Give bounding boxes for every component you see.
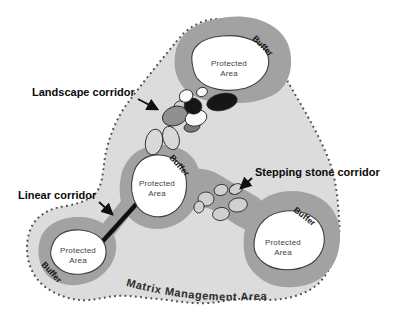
protected-area-bottom-left-label-line1: Protected xyxy=(60,246,96,255)
diagram-stage: Protected Area Protected Area Protected … xyxy=(0,0,397,319)
protected-area-middle-label-line2: Area xyxy=(148,189,166,198)
protected-area-bottom-left-label-line2: Area xyxy=(69,256,87,265)
linear-corridor-label: Linear corridor xyxy=(18,189,97,201)
protected-area-right-label-line2: Area xyxy=(274,248,292,257)
protected-area-top-label-line2: Area xyxy=(220,69,238,78)
corridor-diagram-svg: Protected Area Protected Area Protected … xyxy=(0,0,397,319)
landscape-corridor-label: Landscape corridor xyxy=(32,86,135,98)
protected-area-top-label-line1: Protected xyxy=(211,59,247,68)
protected-area-right-label-line1: Protected xyxy=(265,238,301,247)
protected-area-middle-label-line1: Protected xyxy=(139,179,175,188)
stepping-stone-corridor-label: Stepping stone corridor xyxy=(255,166,380,178)
